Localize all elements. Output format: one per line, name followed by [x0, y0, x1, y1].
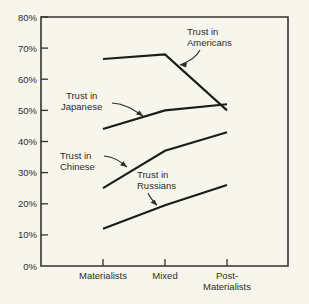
trust-line-chart: 80% 70% 60% 50% 40% 30% 20% 10% 0% Mater…	[0, 0, 309, 304]
annotation-japanese-line2: Japanese	[61, 101, 102, 112]
y-label-60: 60%	[18, 74, 38, 85]
x-label-post-materialists-line1: Post-	[216, 270, 238, 281]
y-label-30: 30%	[18, 167, 38, 178]
x-label-materialists: Materialists	[79, 270, 127, 281]
annotation-chinese-line2: Chinese	[60, 161, 95, 172]
y-label-40: 40%	[18, 136, 38, 147]
x-label-mixed: Mixed	[152, 270, 177, 281]
annotation-chinese-line1: Trust in	[60, 150, 91, 161]
y-label-50: 50%	[18, 105, 38, 116]
y-label-20: 20%	[18, 198, 38, 209]
annotation-japanese-line1: Trust in	[66, 90, 97, 101]
y-axis-labels: 80% 70% 60% 50% 40% 30% 20% 10% 0%	[18, 12, 38, 272]
y-label-70: 70%	[18, 43, 38, 54]
chart-background	[0, 0, 309, 304]
y-label-0: 0%	[23, 261, 37, 272]
annotation-russians-line2: Russians	[137, 180, 176, 191]
annotation-russians-line1: Trust in	[137, 169, 168, 180]
y-label-80: 80%	[18, 12, 38, 23]
annotation-americans-line1: Trust in	[187, 26, 218, 37]
annotation-americans-line2: Americans	[187, 37, 232, 48]
chart-container: 80% 70% 60% 50% 40% 30% 20% 10% 0% Mater…	[0, 0, 309, 304]
x-label-post-materialists-line2: Materialists	[203, 281, 251, 292]
y-label-10: 10%	[18, 229, 38, 240]
